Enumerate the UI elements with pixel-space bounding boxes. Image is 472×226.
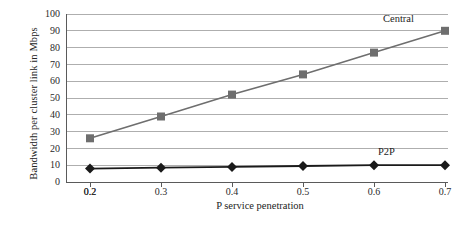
data-point-marker xyxy=(86,134,94,142)
gridlines xyxy=(66,14,448,165)
series-central-line xyxy=(90,31,445,139)
series-central xyxy=(86,27,449,143)
data-point-marker xyxy=(157,113,165,121)
data-point-marker xyxy=(369,160,379,170)
data-point-marker xyxy=(228,91,236,99)
data-point-marker xyxy=(227,162,237,172)
data-point-marker xyxy=(299,70,307,78)
series-label-p2p: P2P xyxy=(378,146,395,157)
x-tick-label-3: 0.4 xyxy=(212,186,252,197)
data-point-marker xyxy=(440,160,450,170)
x-tick-label-1: 0.2 xyxy=(70,186,110,197)
data-point-marker xyxy=(298,161,308,171)
data-point-marker xyxy=(156,163,166,173)
x-axis-title: P service penetration xyxy=(65,200,455,211)
series-p2p-line xyxy=(90,165,445,168)
series-p2p xyxy=(85,160,450,173)
chart-figure: Bandwidth per cluster link in Mbps 100 9… xyxy=(0,0,472,226)
data-point-marker xyxy=(370,49,378,57)
x-tick-label-5: 0.6 xyxy=(354,186,394,197)
x-tick-label-4: 0.5 xyxy=(283,186,323,197)
x-tick-label-6: 0.7 xyxy=(425,186,465,197)
x-tick-label-2: 0.3 xyxy=(141,186,181,197)
series-label-central: Central xyxy=(383,13,414,24)
data-point-marker xyxy=(441,27,449,35)
